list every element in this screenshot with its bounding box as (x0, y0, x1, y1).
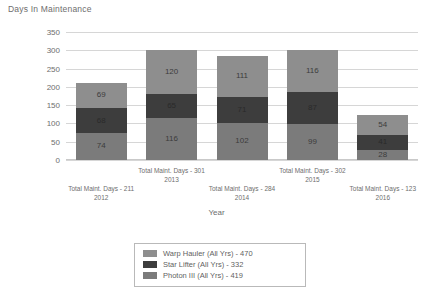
y-axis-tick-label: 50 (32, 137, 60, 146)
bar-segment-value-label: 120 (165, 68, 178, 76)
category-total-label: Total Maint. Days - 301 (117, 166, 227, 175)
bar-segment-value-label: 68 (97, 117, 106, 125)
y-axis-tick-label: 150 (32, 101, 60, 110)
y-axis-tick-label: 300 (32, 46, 60, 55)
bar-segment[interactable]: 120 (146, 50, 197, 94)
y-axis-tick-label: 0 (32, 156, 60, 165)
bar-segment-value-label: 111 (236, 72, 248, 80)
bar-segment-value-label: 74 (97, 142, 106, 150)
legend-color-swatch (143, 272, 157, 279)
bar-segment-value-label: 71 (238, 106, 247, 114)
bar-segment[interactable]: 68 (76, 108, 127, 133)
bar-segment-value-label: 65 (167, 102, 176, 110)
bar-stack[interactable]: 10271111 (217, 32, 268, 160)
bar-segment[interactable]: 116 (287, 50, 338, 92)
bar-segment-value-label: 69 (97, 91, 106, 99)
gridline (66, 160, 418, 161)
bar-segment-value-label: 99 (308, 138, 317, 146)
category-year-label: 2012 (46, 193, 156, 202)
legend-item[interactable]: Star Lifter (All Yrs) - 332 (143, 259, 299, 270)
legend-item-label: Star Lifter (All Yrs) - 332 (163, 260, 243, 269)
chart-title: Days In Maintenance (8, 4, 92, 14)
bar-segment-value-label: 41 (378, 138, 387, 146)
bar-segment[interactable]: 99 (287, 124, 338, 160)
category-year-label: 2015 (257, 175, 367, 184)
category-year-label: 2014 (187, 193, 297, 202)
x-axis-title: Year (0, 208, 433, 217)
bar-segment[interactable]: 102 (217, 123, 268, 160)
bar-stack[interactable]: 11665120 (146, 32, 197, 160)
legend-item[interactable]: Warp Hauler (All Yrs) - 470 (143, 248, 299, 259)
x-axis-category-label: Total Maint. Days - 2842014 (187, 184, 297, 202)
bar-segment-value-label: 102 (235, 137, 248, 145)
bar-segment-value-label: 116 (306, 67, 319, 75)
y-axis-tick-label: 350 (32, 28, 60, 37)
y-axis-tick-label: 100 (32, 119, 60, 128)
bar-segment[interactable]: 74 (76, 133, 127, 160)
bar-segment[interactable]: 111 (217, 56, 268, 97)
bar-segment[interactable]: 116 (146, 118, 197, 160)
bar-segment[interactable]: 28 (357, 150, 408, 160)
bar-segment[interactable]: 54 (357, 115, 408, 135)
bar-stack[interactable]: 9987116 (287, 32, 338, 160)
x-axis-category-label: Total Maint. Days - 3022015 (257, 166, 367, 184)
y-axis-tick-label: 200 (32, 82, 60, 91)
legend-color-swatch (143, 250, 157, 257)
bar-segment-value-label: 54 (378, 121, 387, 129)
category-total-label: Total Maint. Days - 302 (257, 166, 367, 175)
category-total-label: Total Maint. Days - 123 (328, 184, 433, 193)
category-total-label: Total Maint. Days - 284 (187, 184, 297, 193)
category-year-label: 2013 (117, 175, 227, 184)
bar-segment-value-label: 116 (165, 135, 178, 143)
bar-stack[interactable]: 746869 (76, 32, 127, 160)
legend-item-label: Warp Hauler (All Yrs) - 470 (163, 249, 253, 258)
x-axis-category-label: Total Maint. Days - 1232016 (328, 184, 433, 202)
bar-segment-value-label: 87 (308, 104, 317, 112)
bar-segment[interactable]: 69 (76, 83, 127, 108)
legend-color-swatch (143, 261, 157, 268)
category-total-label: Total Maint. Days - 211 (46, 184, 156, 193)
bar-segment[interactable]: 41 (357, 135, 408, 150)
bar-segment[interactable]: 87 (287, 92, 338, 124)
x-axis-category-label: Total Maint. Days - 3012013 (117, 166, 227, 184)
bar-segment[interactable]: 71 (217, 97, 268, 123)
legend-item-label: Photon III (All Yrs) - 419 (163, 271, 243, 280)
bar-stack[interactable]: 284154 (357, 32, 408, 160)
bar-segment[interactable]: 65 (146, 94, 197, 118)
x-axis-category-label: Total Maint. Days - 2112012 (46, 184, 156, 202)
legend-item[interactable]: Photon III (All Yrs) - 419 (143, 270, 299, 281)
bar-segment-value-label: 28 (378, 151, 387, 159)
category-year-label: 2016 (328, 193, 433, 202)
y-axis-tick-label: 250 (32, 64, 60, 73)
chart-legend: Warp Hauler (All Yrs) - 470Star Lifter (… (134, 243, 306, 287)
plot-area: 74686911665120102711119987116284154 (66, 32, 418, 160)
